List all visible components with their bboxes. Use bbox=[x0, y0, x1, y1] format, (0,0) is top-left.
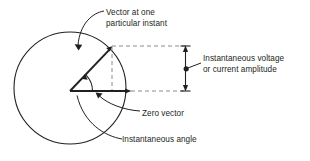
amplitude-leader-dot bbox=[184, 66, 189, 71]
zero-vector-leader-line bbox=[100, 96, 141, 111]
label-instantaneous-amplitude: Instantaneous voltage or current amplitu… bbox=[203, 54, 284, 75]
label-vector-at-instant: Vector at one particular instant bbox=[106, 8, 167, 29]
instantaneous-angle-leader-line bbox=[77, 96, 122, 140]
vector-instant-leader-line bbox=[78, 11, 104, 45]
phasor-diagram-figure: Vector at one particular instant Instant… bbox=[0, 0, 310, 161]
label-vector-at-instant-line1: Vector at one bbox=[106, 8, 167, 19]
zero-vector-arrowhead bbox=[125, 88, 132, 93]
instantaneous-angle-arc bbox=[86, 75, 92, 91]
label-zero-vector: Zero vector bbox=[142, 109, 184, 120]
instantaneous-vector-line bbox=[70, 50, 109, 91]
label-instantaneous-amplitude-line2: or current amplitude bbox=[203, 65, 284, 76]
label-vector-at-instant-line2: particular instant bbox=[106, 19, 167, 30]
label-instantaneous-amplitude-line1: Instantaneous voltage bbox=[203, 54, 284, 65]
amplitude-leader-line bbox=[187, 63, 202, 69]
label-instantaneous-angle: Instantaneous angle bbox=[122, 135, 197, 146]
vector-instant-leader-arrowhead bbox=[75, 44, 83, 50]
